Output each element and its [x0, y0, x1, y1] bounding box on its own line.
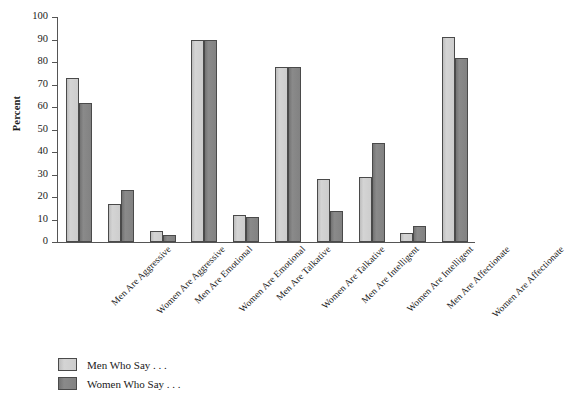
bar [121, 190, 134, 242]
y-tick: 80 [52, 62, 57, 63]
y-tick: 10 [52, 220, 57, 221]
legend-swatch-light [58, 358, 77, 371]
bar-group [66, 17, 92, 242]
y-tick-label: 90 [22, 33, 48, 44]
bar [372, 143, 385, 242]
legend-item: Women Who Say . . . [58, 374, 181, 393]
x-axis-label: Women Are Talkative [320, 244, 387, 311]
legend-swatch-dark [58, 377, 77, 390]
y-tick: 70 [52, 85, 57, 86]
bar [400, 233, 413, 242]
y-tick-label: 10 [22, 213, 48, 224]
bar-group [108, 17, 134, 242]
bar [413, 226, 426, 242]
chart-legend: Men Who Say . . .Women Who Say . . . [58, 355, 181, 393]
y-tick-label: 30 [22, 168, 48, 179]
y-tick-label: 100 [22, 10, 48, 21]
bar-group [317, 17, 343, 242]
bar [455, 58, 468, 243]
legend-item: Men Who Say . . . [58, 355, 181, 374]
y-axis-line [57, 17, 58, 242]
y-tick-label: 80 [22, 55, 48, 66]
y-tick: 90 [52, 40, 57, 41]
bar [330, 211, 343, 243]
bar [79, 103, 92, 243]
bar-group [150, 17, 176, 242]
y-tick-label: 40 [22, 145, 48, 156]
y-tick: 40 [52, 152, 57, 153]
y-tick: 20 [52, 197, 57, 198]
bar [233, 215, 246, 242]
y-tick: 30 [52, 175, 57, 176]
y-tick: 60 [52, 107, 57, 108]
bar [246, 217, 259, 242]
bar-group [275, 17, 301, 242]
bar [150, 231, 163, 242]
legend-label: Men Who Say . . . [87, 359, 167, 371]
bar-group [442, 17, 468, 242]
bar-group [233, 17, 259, 242]
bar-group [191, 17, 217, 242]
bar [317, 179, 330, 242]
x-axis-label: Men Are Aggressive [109, 244, 173, 308]
y-tick-label: 70 [22, 78, 48, 89]
x-axis-line [57, 242, 475, 243]
bar [163, 235, 176, 242]
bar [191, 40, 204, 243]
x-axis-label: Men Are Intelligent [359, 244, 420, 305]
y-tick: 50 [52, 130, 57, 131]
bar [204, 40, 217, 243]
bar [275, 67, 288, 243]
y-tick-label: 0 [22, 235, 48, 246]
y-tick: 100 [52, 17, 57, 18]
bar [108, 204, 121, 242]
bar [359, 177, 372, 242]
bar-group [400, 17, 426, 242]
y-axis-title: Percent [11, 74, 22, 154]
bar-group [359, 17, 385, 242]
bar [288, 67, 301, 243]
plot-area: 1009080706050403020100 [57, 17, 475, 242]
y-tick: 0 [52, 242, 57, 243]
y-tick-label: 60 [22, 100, 48, 111]
x-axis-labels: Men Are AggressiveWomen Are AggressiveMe… [57, 244, 475, 344]
y-tick-label: 20 [22, 190, 48, 201]
bar [442, 37, 455, 242]
bar [66, 78, 79, 242]
legend-label: Women Who Say . . . [87, 378, 181, 390]
y-tick-label: 50 [22, 123, 48, 134]
